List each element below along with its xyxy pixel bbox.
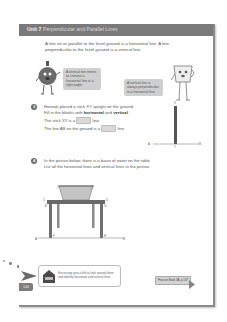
- basin-table-diagram: I J C D E G F H A B: [36, 184, 126, 244]
- keyword-vertical: vertical: [113, 110, 128, 115]
- unit-title: Perpendicular and Parallel Lines: [43, 26, 118, 32]
- keyword-horizontal: horizontal: [84, 110, 104, 115]
- question-4-number: 4: [31, 158, 37, 164]
- fill-blank-1: The stick XY is a line.: [44, 117, 144, 124]
- round-character-icon: [36, 61, 60, 101]
- stick-diagram: X Y A B: [151, 102, 201, 150]
- blank-input-1[interactable]: [76, 117, 91, 124]
- intro-text: A line on or parallel to the level groun…: [45, 41, 195, 53]
- parent-tip-box: Encourage your child to look around them…: [38, 265, 121, 287]
- speech-bubble-1: A vertical line meets or crosses a horiz…: [63, 68, 101, 90]
- speech-bubble-2: A vertical line is always perpendicular …: [124, 79, 163, 96]
- unit-label: Unit 7: [27, 26, 41, 32]
- textbook-page: Unit 7 Perpendicular and Parallel Lines …: [19, 24, 215, 307]
- question-4-line-1: In the picture below, there is a basin o…: [44, 158, 164, 164]
- house-icon: [43, 269, 55, 287]
- blank-input-2[interactable]: [101, 125, 116, 132]
- practice-arrow-icon: [189, 275, 195, 293]
- question-4-text: In the picture below, there is a basin o…: [44, 158, 164, 170]
- question-4-line-2: List all the horizontal lines and vertic…: [44, 164, 164, 170]
- question-3-line-2: Fill in the blanks with horizontal and v…: [44, 110, 144, 116]
- page-number-tab: 140: [19, 283, 33, 291]
- fill-blank-2: The line AB on the ground is a line.: [44, 125, 144, 132]
- question-3-number: 3: [31, 104, 37, 110]
- question-3-text: Hannah placed a stick XY upright on the …: [44, 104, 144, 132]
- practice-book-link[interactable]: Practice Book 3A, p.137: [155, 276, 191, 285]
- header-bar: Unit 7 Perpendicular and Parallel Lines: [19, 24, 213, 36]
- parent-tip-text: Encourage your child to look around them…: [58, 271, 118, 279]
